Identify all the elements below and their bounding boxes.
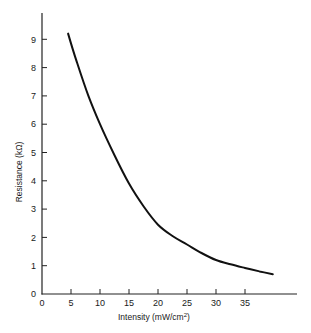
x-tick-label: 5 [68,298,73,308]
x-tick-label: 15 [124,298,134,308]
x-tick-label: 20 [153,298,163,308]
x-tick-label: 35 [240,298,250,308]
y-tick-label: 2 [31,233,36,243]
y-tick-label: 5 [31,148,36,158]
y-tick-label: 7 [31,91,36,101]
y-tick-label: 0 [31,289,36,299]
x-axis-label-main: Intensity (mW/cm [118,312,184,322]
x-axis-label: Intensity (mW/cm2) [118,312,190,323]
resistance-intensity-chart: 0123456789 05101520253035 Resistance (kΩ… [0,0,311,333]
x-tick-label: 30 [211,298,221,308]
y-tick-label: 8 [31,63,36,73]
resistance-curve [68,34,273,275]
x-tick-label: 10 [95,298,105,308]
y-tick-label: 9 [31,35,36,45]
x-ticks: 05101520253035 [39,289,250,308]
y-tick-label: 4 [31,176,36,186]
y-axis-label: Resistance (kΩ) [14,141,24,202]
x-tick-label: 25 [182,298,192,308]
axes [42,13,298,295]
x-tick-label: 0 [39,298,44,308]
y-ticks: 0123456789 [31,35,47,300]
y-tick-label: 3 [31,204,36,214]
y-tick-label: 6 [31,119,36,129]
y-tick-label: 1 [31,261,36,271]
x-axis-label-close: ) [187,312,190,322]
